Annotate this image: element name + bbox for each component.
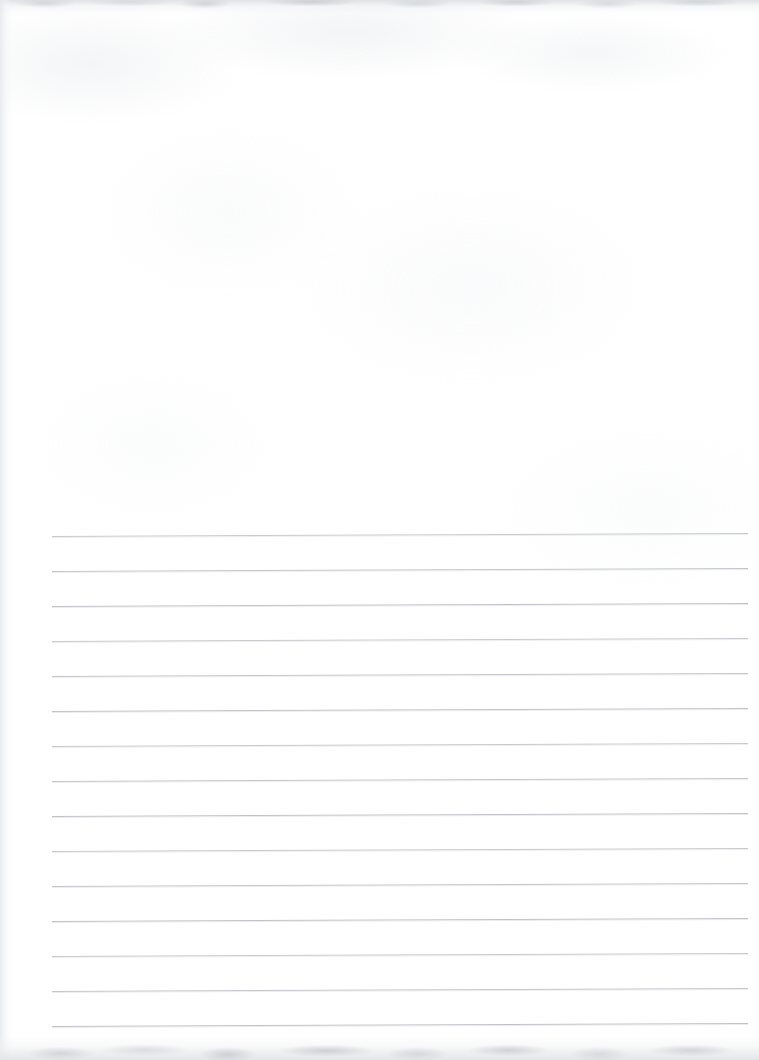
ruled-line xyxy=(52,1023,748,1027)
ruled-line xyxy=(52,673,748,677)
ruled-line xyxy=(52,988,748,992)
ruled-line xyxy=(52,918,748,922)
ruled-line xyxy=(52,778,748,782)
ruled-line xyxy=(52,603,748,607)
ruled-line xyxy=(52,813,748,817)
ruled-line xyxy=(52,533,748,537)
ruled-line xyxy=(52,638,748,642)
ruled-lines-group xyxy=(0,0,759,1060)
ruled-line xyxy=(52,848,748,852)
scanned-page xyxy=(0,0,759,1060)
ruled-line xyxy=(52,883,748,887)
ruled-line xyxy=(52,953,748,957)
ruled-line xyxy=(52,708,748,712)
ruled-line xyxy=(52,743,748,747)
ruled-line xyxy=(52,568,748,572)
